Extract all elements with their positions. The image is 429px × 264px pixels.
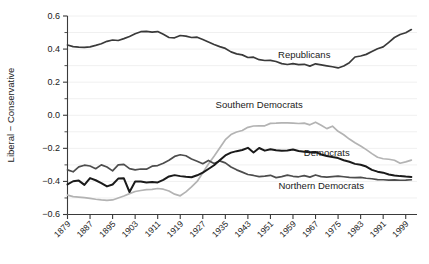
y-tick-labels-group: 0.60.40.20.0−0.2−0.4−0.6 xyxy=(42,11,60,220)
gridlines-group xyxy=(68,16,418,215)
x-tick-label: 1919 xyxy=(165,219,186,240)
x-tick-label: 1983 xyxy=(345,219,366,240)
x-tick-label: 1887 xyxy=(75,219,96,240)
series-line-northern-democrats xyxy=(68,155,412,180)
y-tick-label: 0.4 xyxy=(47,44,60,54)
y-tick-label: −0.2 xyxy=(42,143,60,153)
x-tick-label: 1943 xyxy=(232,219,253,240)
x-tick-label: 1967 xyxy=(300,219,321,240)
x-tick-label: 1911 xyxy=(143,219,163,239)
x-tick-label: 1975 xyxy=(323,219,344,240)
x-tick-label: 1935 xyxy=(210,219,231,240)
line-chart-canvas: 0.60.40.20.0−0.2−0.4−0.6 187918871895190… xyxy=(0,0,429,264)
series-label-republicans: Republicans xyxy=(278,49,331,60)
y-tick-label: 0.6 xyxy=(47,11,60,21)
y-tick-label: 0.2 xyxy=(47,77,60,87)
x-tick-label: 1903 xyxy=(120,219,141,240)
x-tick-label: 1999 xyxy=(390,219,411,240)
y-tick-label: −0.4 xyxy=(42,176,60,186)
y-tick-label: 0.0 xyxy=(47,110,60,120)
x-ticks-group xyxy=(68,215,406,220)
x-tick-label: 1951 xyxy=(255,219,276,240)
x-tick-label: 1895 xyxy=(97,219,118,240)
x-tick-label: 1879 xyxy=(52,219,73,240)
x-tick-label: 1927 xyxy=(187,219,208,240)
x-tick-labels-group: 1879188718951903191119191927193519431951… xyxy=(52,219,411,240)
y-axis-title: Liberal − Conservative xyxy=(5,68,16,163)
y-tick-label: −0.6 xyxy=(42,209,60,219)
chart-figure: 0.60.40.20.0−0.2−0.4−0.6 187918871895190… xyxy=(0,0,429,264)
series-label-southern-democrats: Southern Democrats xyxy=(216,99,303,110)
series-label-democrats: Democrats xyxy=(304,147,350,158)
series-label-northern-democrats: Northern Democrats xyxy=(278,180,364,191)
x-tick-label: 1959 xyxy=(277,219,298,240)
x-tick-label: 1991 xyxy=(368,219,389,240)
